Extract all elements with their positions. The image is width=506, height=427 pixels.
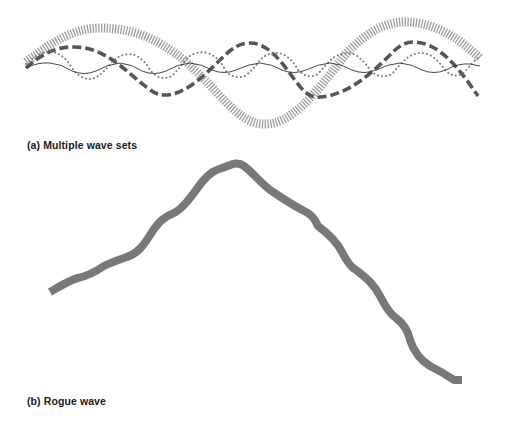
panel-a-caption: (a) Multiple wave sets [27, 139, 137, 151]
wave-diagram-svg [0, 0, 506, 427]
long-swell-wave [26, 22, 480, 124]
medium-swell-wave [26, 42, 478, 97]
panel-b-caption: (b) Rogue wave [27, 395, 106, 407]
panel-a-waves [26, 22, 480, 124]
rogue-wave [50, 163, 462, 380]
wave-figure: (a) Multiple wave sets (b) Rogue wave [0, 0, 506, 427]
